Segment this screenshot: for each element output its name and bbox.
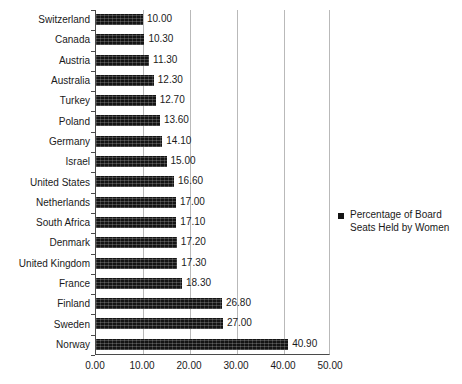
bar[interactable] — [96, 258, 177, 269]
bar[interactable] — [96, 75, 154, 86]
bar-value-label: 18.30 — [186, 276, 211, 290]
bar-row: 17.10 — [96, 213, 329, 233]
category-label: Turkey — [0, 94, 90, 108]
category-tick — [91, 314, 95, 315]
category-label: United Kingdom — [0, 257, 90, 271]
category-label: Denmark — [0, 236, 90, 250]
bar[interactable] — [96, 217, 176, 228]
category-label: Finland — [0, 297, 90, 311]
category-tick — [91, 152, 95, 153]
bar-value-label: 26.80 — [226, 296, 251, 310]
bar-row: 11.30 — [96, 51, 329, 71]
bar[interactable] — [96, 237, 177, 248]
x-axis-tick-label: 50.00 — [300, 359, 360, 373]
category-tick — [91, 132, 95, 133]
category-tick — [91, 111, 95, 112]
category-label: Germany — [0, 135, 90, 149]
bar-row: 12.30 — [96, 71, 329, 91]
bar-value-label: 27.00 — [227, 316, 252, 330]
category-label: Switzerland — [0, 13, 90, 27]
bar[interactable] — [96, 14, 143, 25]
category-tick — [91, 91, 95, 92]
category-tick — [91, 335, 95, 336]
bar-value-label: 12.30 — [158, 73, 183, 87]
bar-value-label: 14.10 — [166, 134, 191, 148]
bar-row: 17.20 — [96, 233, 329, 253]
category-label: France — [0, 277, 90, 291]
category-label: Netherlands — [0, 196, 90, 210]
category-tick — [91, 30, 95, 31]
bar[interactable] — [96, 136, 162, 147]
bar-row: 15.00 — [96, 152, 329, 172]
category-tick — [91, 355, 95, 356]
plot-area: 10.0010.3011.3012.3012.7013.6014.1015.00… — [95, 10, 330, 355]
category-label: Poland — [0, 115, 90, 129]
bar-value-label: 11.30 — [153, 53, 177, 67]
bar-value-label: 17.20 — [181, 235, 206, 249]
bar[interactable] — [96, 95, 156, 106]
bar[interactable] — [96, 318, 223, 329]
bar-value-label: 16.60 — [178, 174, 203, 188]
bar[interactable] — [96, 339, 288, 350]
bar-row: 17.00 — [96, 193, 329, 213]
bar[interactable] — [96, 115, 160, 126]
bar[interactable] — [96, 197, 176, 208]
category-label: Austria — [0, 54, 90, 68]
category-tick — [91, 294, 95, 295]
bar-row: 14.10 — [96, 132, 329, 152]
bar-row: 10.30 — [96, 30, 329, 50]
category-tick — [91, 233, 95, 234]
bar[interactable] — [96, 156, 167, 167]
category-label: Israel — [0, 155, 90, 169]
bar-value-label: 10.00 — [147, 12, 172, 26]
category-tick — [91, 172, 95, 173]
bar[interactable] — [96, 34, 144, 45]
category-label: Sweden — [0, 318, 90, 332]
category-label: United States — [0, 176, 90, 190]
bar-chart: 10.0010.3011.3012.3012.7013.6014.1015.00… — [0, 0, 462, 384]
bar-row: 18.30 — [96, 274, 329, 294]
category-tick — [91, 254, 95, 255]
bar-value-label: 17.30 — [181, 256, 206, 270]
bar-value-label: 12.70 — [160, 93, 185, 107]
category-label: South Africa — [0, 216, 90, 230]
category-tick — [91, 274, 95, 275]
category-tick — [91, 193, 95, 194]
category-label: Australia — [0, 74, 90, 88]
legend-label: Percentage of Board Seats Held by Women — [350, 209, 458, 234]
bar-row: 13.60 — [96, 111, 329, 131]
bar-value-label: 15.00 — [171, 154, 196, 168]
bar-row: 26.80 — [96, 294, 329, 314]
category-tick — [91, 213, 95, 214]
category-label: Norway — [0, 338, 90, 352]
bar-row: 10.00 — [96, 10, 329, 30]
bar-value-label: 13.60 — [164, 113, 189, 127]
bar-value-label: 17.10 — [180, 215, 205, 229]
bar-value-label: 40.90 — [292, 337, 317, 351]
category-label: Canada — [0, 33, 90, 47]
bar-value-label: 10.30 — [148, 32, 173, 46]
category-tick — [91, 51, 95, 52]
bar-row: 27.00 — [96, 314, 329, 334]
bar-row: 16.60 — [96, 172, 329, 192]
bar[interactable] — [96, 278, 182, 289]
bar[interactable] — [96, 176, 174, 187]
bar-value-label: 17.00 — [180, 195, 205, 209]
bar[interactable] — [96, 55, 149, 66]
bar-row: 40.90 — [96, 335, 329, 355]
bar[interactable] — [96, 298, 222, 309]
category-tick — [91, 71, 95, 72]
category-tick — [91, 10, 95, 11]
bar-row: 17.30 — [96, 254, 329, 274]
bar-row: 12.70 — [96, 91, 329, 111]
legend-marker-icon — [338, 213, 344, 219]
